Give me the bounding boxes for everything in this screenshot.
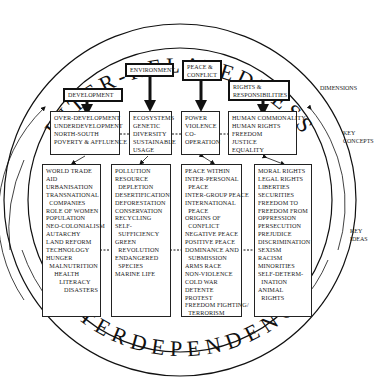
dimension-rights-responsibilities: RIGHTS & RESPONSIBILITIES	[228, 80, 290, 101]
ideas-development: WORLD TRADE AID URBANISATION TRANSNATION…	[42, 164, 101, 317]
concepts-development: OVER-DEVELOPMENT UNDERDEVELOPMENT NORTH-…	[50, 111, 120, 155]
concepts-environment: ECOSYSTEMS GENETIC DIVERSITY SUSTAINABLE…	[129, 111, 172, 155]
ideas-peace-conflict: PEACE WITHIN INTER-PERSONAL PEACE INTER-…	[181, 164, 242, 317]
concepts-peace-conflict: POWER VIOLENCE CO- OPERATION	[181, 111, 220, 155]
ideas-environment: POLLUTION RESOURCE DEPLETION DESERTIFICA…	[111, 164, 171, 317]
dimension-environment: ENVIRONMENT	[125, 63, 174, 77]
ideas-rights-responsibilities: MORAL RIGHTS LEGAL RIGHTS LIBERTIES SECU…	[254, 164, 312, 317]
dimension-development: DEVELOPMENT	[63, 88, 123, 102]
label-key-concepts: KEY CONCEPTS	[343, 130, 374, 145]
label-key-ideas: KEY IDEAS	[350, 228, 368, 243]
dimension-peace-conflict: PEACE & CONFLICT	[182, 60, 222, 81]
concepts-rights-responsibilities: HUMAN COMMONALITY HUMAN RIGHTS FREEDOM J…	[228, 111, 297, 155]
label-dimensions: DIMENSIONS	[320, 85, 357, 93]
